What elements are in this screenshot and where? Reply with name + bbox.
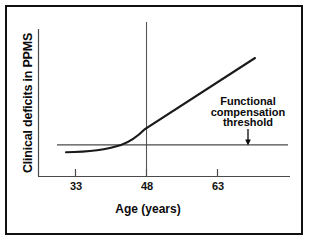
x-tick-label-48: 48 <box>127 180 167 192</box>
threshold-annotation-line-1: Functional <box>193 96 303 107</box>
x-axis-label: Age (years) <box>88 202 208 216</box>
figure-container: Clinical deficits in PPMS 33 48 63 Age (… <box>0 0 312 249</box>
x-tick-label-33: 33 <box>56 180 96 192</box>
threshold-annotation-line-3: threshold <box>193 117 303 128</box>
threshold-annotation: Functional compensation threshold <box>193 96 303 128</box>
x-tick-label-63: 63 <box>198 180 238 192</box>
y-axis-label: Clinical deficits in PPMS <box>21 23 35 183</box>
